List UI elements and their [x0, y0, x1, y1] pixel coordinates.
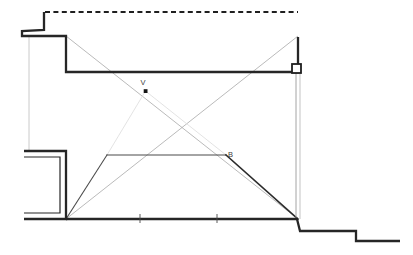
point-b-label: B: [228, 150, 233, 159]
drawing-background: [0, 0, 413, 255]
perspective-construction-figure: V B: [0, 0, 413, 255]
vanishing-point-label: V: [140, 78, 145, 87]
technical-drawing-canvas: V B: [0, 0, 413, 255]
hinge-node-square-icon: [292, 64, 301, 73]
vanishing-point-dot-icon: [144, 89, 148, 93]
